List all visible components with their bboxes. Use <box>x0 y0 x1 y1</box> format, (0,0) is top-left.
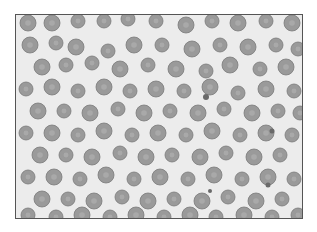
red-blood-cell <box>121 15 135 26</box>
red-blood-cell <box>74 207 90 219</box>
red-blood-cell <box>182 207 198 219</box>
red-blood-cell <box>111 102 125 116</box>
red-blood-cell <box>213 38 227 52</box>
red-blood-cell <box>167 192 181 206</box>
red-blood-cell <box>217 102 231 116</box>
red-blood-cell <box>177 84 191 98</box>
red-blood-cell <box>71 84 85 98</box>
cell-field <box>16 15 303 219</box>
red-blood-cell <box>246 149 262 165</box>
red-blood-cell <box>222 57 238 73</box>
red-blood-cell <box>152 169 168 185</box>
red-blood-cell <box>192 149 208 165</box>
red-blood-cell <box>44 79 60 95</box>
red-blood-cell <box>34 191 50 207</box>
red-blood-cell <box>233 128 247 142</box>
red-blood-cell <box>219 146 233 160</box>
red-blood-cell <box>284 15 300 31</box>
red-blood-cell <box>231 86 245 100</box>
red-blood-cell <box>248 193 264 209</box>
red-blood-cell <box>293 106 303 120</box>
red-blood-cell <box>287 172 301 186</box>
red-blood-cell <box>258 81 274 97</box>
red-blood-cell <box>236 207 252 219</box>
red-blood-cell <box>202 79 218 95</box>
red-blood-cell <box>98 167 114 183</box>
red-blood-cell <box>30 103 46 119</box>
red-blood-cell <box>149 15 163 28</box>
red-blood-cell <box>194 193 210 209</box>
red-blood-cell <box>150 125 166 141</box>
red-blood-cell <box>115 190 129 204</box>
red-blood-cell <box>138 149 154 165</box>
red-blood-cell <box>57 104 71 118</box>
red-blood-cell <box>235 172 249 186</box>
red-blood-cell <box>155 38 169 52</box>
red-blood-cell <box>44 15 60 31</box>
red-blood-cell <box>240 39 256 55</box>
red-blood-cell <box>278 59 294 75</box>
red-blood-cell <box>71 15 85 28</box>
red-blood-cell <box>21 170 35 184</box>
red-blood-cell <box>140 193 156 209</box>
red-blood-cell <box>46 169 62 185</box>
red-blood-cell <box>59 148 73 162</box>
red-blood-cell <box>168 61 184 77</box>
red-blood-cell <box>123 84 137 98</box>
red-blood-cell <box>49 36 63 50</box>
platelet <box>270 129 275 134</box>
red-blood-cell <box>101 44 115 58</box>
red-blood-cell <box>205 15 219 28</box>
red-blood-cell <box>265 210 279 219</box>
red-blood-cell <box>127 172 141 186</box>
red-blood-cell <box>19 82 33 96</box>
red-blood-cell <box>291 208 303 219</box>
red-blood-cell <box>97 15 111 28</box>
red-blood-cell <box>103 210 117 219</box>
platelet <box>266 183 271 188</box>
red-blood-cell <box>32 147 48 163</box>
red-blood-cell <box>271 104 285 118</box>
red-blood-cell <box>61 192 75 206</box>
red-blood-cell <box>113 146 127 160</box>
red-blood-cell <box>273 148 287 162</box>
red-blood-cell <box>96 79 112 95</box>
red-blood-cell <box>165 148 179 162</box>
red-blood-cell <box>184 41 200 57</box>
red-blood-cell <box>178 17 194 33</box>
red-blood-cell <box>291 42 303 56</box>
red-blood-cell <box>73 172 87 186</box>
red-blood-cell <box>136 105 152 121</box>
red-blood-cell <box>199 64 213 78</box>
red-blood-cell <box>163 104 177 118</box>
red-blood-cell <box>49 210 63 219</box>
red-blood-cell <box>285 128 299 142</box>
platelet <box>203 94 209 100</box>
red-blood-cell <box>269 38 283 52</box>
red-blood-cell <box>190 105 206 121</box>
red-blood-cell <box>181 172 195 186</box>
red-blood-cell <box>125 128 139 142</box>
red-blood-cell <box>19 126 33 140</box>
red-blood-cell <box>34 59 50 75</box>
red-blood-cell <box>126 37 142 53</box>
red-blood-cell <box>96 123 112 139</box>
red-blood-cell <box>209 210 223 219</box>
red-blood-cell <box>44 125 60 141</box>
platelet <box>208 189 212 193</box>
red-blood-cell <box>206 167 222 183</box>
red-blood-cell <box>221 190 235 204</box>
red-blood-cell <box>68 39 84 55</box>
red-blood-cell <box>287 84 301 98</box>
red-blood-cell <box>157 210 171 219</box>
red-blood-cell <box>59 58 73 72</box>
red-blood-cell <box>128 207 144 219</box>
red-blood-cell <box>112 61 128 77</box>
red-blood-cell <box>20 15 36 31</box>
red-blood-cell <box>84 149 100 165</box>
red-blood-cell <box>21 208 35 219</box>
red-blood-cell <box>244 105 260 121</box>
red-blood-cell <box>204 123 220 139</box>
red-blood-cell <box>82 105 98 121</box>
red-blood-cell <box>85 56 99 70</box>
